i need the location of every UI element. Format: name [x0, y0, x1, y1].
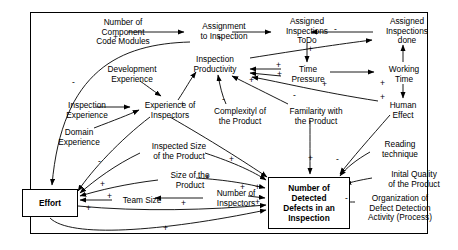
node-dev_experience[interactable]: DevelopmentExperience: [94, 65, 170, 84]
node-familarity[interactable]: Familarity withthe Product: [280, 107, 352, 126]
node-initial_quality[interactable]: Inital Qualityof the Product: [376, 170, 452, 189]
node-label: TimePressure: [291, 64, 324, 84]
polarity-sign: -: [334, 25, 337, 34]
node-insp_experience[interactable]: InspectionExperience: [56, 101, 118, 120]
node-label: Complexityl ofthe Product: [214, 106, 266, 126]
polarity-sign: +: [205, 173, 210, 182]
node-domain_experience[interactable]: DomainExperience: [46, 128, 112, 147]
node-label: Number ofDetectedDefects in anInspection: [283, 183, 335, 224]
node-label: Effort: [39, 198, 61, 208]
polarity-sign: -: [293, 91, 296, 100]
polarity-sign: -: [345, 194, 348, 203]
polarity-sign: +: [322, 80, 327, 89]
polarity-sign: +: [107, 192, 112, 201]
polarity-sign: +: [308, 45, 313, 54]
node-label: AssignedInspectionsdone: [386, 16, 428, 45]
node-size_product[interactable]: Size of theProduct: [159, 171, 221, 190]
node-inspected_size[interactable]: Inspected Sizeof the Product: [138, 142, 220, 161]
polarity-sign: -: [72, 78, 75, 87]
polarity-sign: +: [277, 70, 282, 79]
polarity-sign: +: [100, 180, 105, 189]
node-code_modules[interactable]: Number ofComponentCode Modules: [81, 18, 165, 47]
node-label: DevelopmentExperience: [108, 64, 157, 84]
polarity-sign: -: [98, 157, 101, 166]
node-label: InspectionProductivity: [194, 54, 237, 74]
node-working_time[interactable]: WorkingTime: [378, 65, 430, 84]
node-todo[interactable]: AssignedInspectionsToDo: [276, 17, 338, 46]
node-label: Assignmentto Inspection: [200, 21, 247, 41]
node-reading_technique[interactable]: Readingtechnique: [372, 140, 428, 159]
node-complexity[interactable]: Complexityl ofthe Product: [204, 107, 276, 126]
polarity-sign: +: [113, 33, 118, 42]
polarity-sign: +: [163, 224, 168, 233]
polarity-sign: +: [180, 100, 185, 109]
node-label: InspectionExperience: [66, 100, 108, 120]
polarity-sign: +: [229, 155, 234, 164]
polarity-sign: +: [181, 199, 186, 208]
node-assignment[interactable]: Assignmentto Inspection: [188, 22, 260, 41]
node-label: Readingtechnique: [382, 139, 418, 159]
node-exp_inspectors[interactable]: Experience ofInspectors: [134, 101, 206, 120]
polarity-sign: +: [380, 93, 385, 102]
node-defects[interactable]: Number ofDetectedDefects in anInspection: [268, 177, 350, 229]
polarity-sign: +: [308, 154, 313, 163]
polarity-sign: -: [222, 95, 225, 104]
polarity-sign: +: [255, 198, 260, 207]
node-label: Organization ofDefect DetectionActivity …: [368, 193, 432, 222]
polarity-sign: +: [255, 183, 260, 192]
diagram-canvas: Number ofComponentCode ModulesAssignment…: [0, 0, 458, 250]
polarity-sign: +: [240, 183, 245, 192]
node-label: Team Size: [123, 195, 162, 205]
node-label: Inspected Sizeof the Product: [152, 141, 206, 161]
node-label: Experience ofInspectors: [145, 100, 196, 120]
polarity-sign: +: [380, 79, 385, 88]
node-label: HumanEffect: [390, 100, 417, 120]
polarity-sign: +: [217, 34, 222, 43]
node-human_effect[interactable]: HumanEffect: [380, 101, 426, 120]
node-label: Familarity withthe Product: [289, 106, 342, 126]
node-done[interactable]: AssignedInspectionsdone: [376, 17, 438, 46]
node-team_size[interactable]: Team Size: [114, 196, 170, 206]
node-effort[interactable]: Effort: [22, 189, 78, 217]
polarity-sign: +: [249, 76, 254, 85]
polarity-sign: +: [86, 204, 91, 213]
node-productivity[interactable]: InspectionProductivity: [182, 55, 248, 74]
node-label: Number ofComponentCode Modules: [96, 17, 150, 46]
node-label: Size of theProduct: [170, 170, 209, 190]
node-label: Number ofInspectors: [217, 188, 256, 208]
node-label: Inital Qualityof the Product: [388, 169, 440, 189]
node-label: WorkingTime: [389, 64, 419, 84]
node-label: DomainExperience: [58, 127, 100, 147]
node-organization[interactable]: Organization ofDefect DetectionActivity …: [358, 194, 442, 223]
polarity-sign: -: [336, 155, 339, 164]
node-label: AssignedInspectionsToDo: [286, 16, 328, 45]
